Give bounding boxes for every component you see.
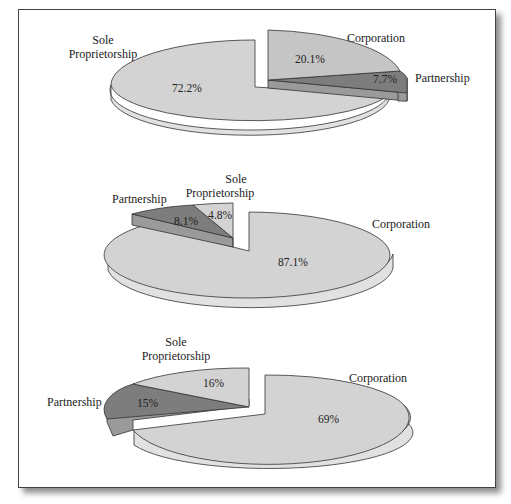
pie-chart-2 [104,203,393,308]
pie-chart-1 [110,30,407,135]
label-sole: Sole [225,172,246,186]
label-partnership: Partnership [112,192,167,206]
label-partnership: Partnership [47,395,102,409]
pie-charts: Sole Proprietorship Corporation Partners… [0,0,511,504]
label-corporation: Corporation [372,217,430,231]
pct-part: 15% [137,397,159,409]
pct-sole: 16% [203,377,225,389]
label-partnership: Partnership [415,71,470,85]
pct-part: 8.1% [174,215,198,227]
pct-part: 7.7% [373,73,397,85]
pct-corp: 69% [318,413,340,425]
label-proprietorship: Proprietorship [69,47,138,61]
label-sole: Sole [165,335,186,349]
pct-sole: 4.8% [208,209,232,221]
pct-corp: 87.1% [278,256,308,268]
label-corporation: Corporation [349,371,407,385]
pct-corp: 20.1% [295,53,325,65]
label-corporation: Corporation [347,31,405,45]
pct-sole: 72.2% [172,82,202,94]
label-proprietorship: Proprietorship [186,186,255,200]
label-sole: Sole [92,33,113,47]
label-proprietorship: Proprietorship [142,349,211,363]
